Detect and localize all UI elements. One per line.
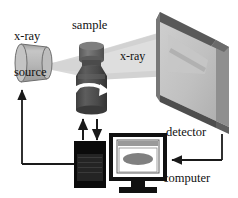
detector-panel (156, 12, 229, 134)
label-xray-source-line1: x-ray (14, 30, 47, 42)
xray-beam (52, 30, 172, 80)
computer-monitor (109, 133, 167, 193)
control-unit (74, 141, 106, 188)
label-xray-beam: x-ray (120, 50, 145, 62)
label-sample: sample (72, 19, 107, 31)
label-xray-source: x-ray source (14, 6, 47, 102)
label-computer: computer (163, 172, 210, 184)
label-detector: detector (166, 126, 206, 138)
xray-instrument-diagram: x-ray source sample x-ray detector compu… (0, 0, 238, 198)
label-xray-source-line2: source (14, 66, 47, 78)
